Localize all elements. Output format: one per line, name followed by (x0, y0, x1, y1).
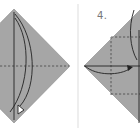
origami-diagram (0, 0, 140, 135)
panel-step-3 (0, 9, 70, 123)
step-number-label: 4. (97, 10, 108, 21)
panel-step-4 (84, 9, 140, 123)
paper-diamond-left (0, 9, 70, 123)
